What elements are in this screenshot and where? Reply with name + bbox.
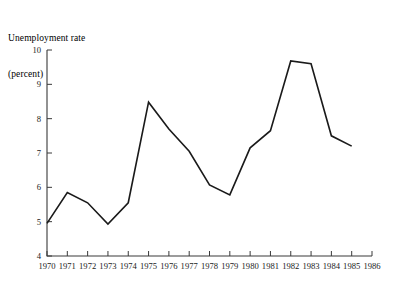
x-tick-label-1974: 1974 <box>120 261 138 271</box>
x-tick-label-1977: 1977 <box>181 261 199 271</box>
x-tick-label-1985: 1985 <box>343 261 360 271</box>
chart-figure: Unemployment rate (percent) 45678910 197… <box>0 0 393 282</box>
y-tick-label-6: 6 <box>37 182 42 192</box>
chart-title: Unemployment rate (percent) <box>8 8 85 104</box>
series-group <box>47 61 352 224</box>
y-tick-label-5: 5 <box>37 217 41 227</box>
x-tick-label-1978: 1978 <box>201 261 218 271</box>
x-tick-label-1975: 1975 <box>140 261 157 271</box>
x-tick-label-1980: 1980 <box>242 261 259 271</box>
x-tick-label-1971: 1971 <box>59 261 76 271</box>
x-tick-label-1986: 1986 <box>363 261 381 271</box>
x-tick-label-1983: 1983 <box>302 261 319 271</box>
x-tick-label-1976: 1976 <box>160 261 178 271</box>
x-tick-label-1982: 1982 <box>282 261 299 271</box>
y-tick-label-4: 4 <box>37 251 42 261</box>
y-tick-label-8: 8 <box>37 114 41 124</box>
axes-group <box>47 50 372 256</box>
unemployment-rate-line <box>47 61 352 224</box>
x-tick-label-1981: 1981 <box>262 261 279 271</box>
x-tick-label-1972: 1972 <box>79 261 96 271</box>
x-tick-label-1973: 1973 <box>99 261 116 271</box>
chart-title-line-1: Unemployment rate <box>8 32 85 44</box>
axis-lines <box>47 50 372 256</box>
x-tick-label-1979: 1979 <box>221 261 238 271</box>
x-axis-tick-labels: 1970197119721973197419751976197719781979… <box>38 261 381 271</box>
y-tick-label-7: 7 <box>37 148 42 158</box>
chart-title-line-2: (percent) <box>8 68 85 80</box>
x-tick-label-1970: 1970 <box>38 261 55 271</box>
x-axis-ticks <box>47 251 372 256</box>
x-tick-label-1984: 1984 <box>323 261 341 271</box>
